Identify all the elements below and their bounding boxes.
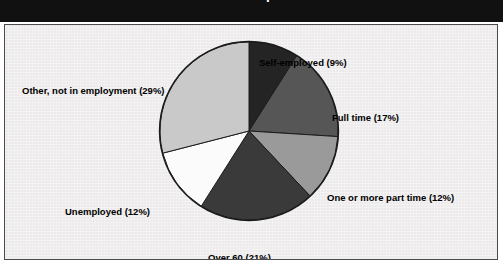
chart-panel: Self-employed (9%) Full time (17%) One o…	[4, 24, 498, 260]
pie-slice-group	[160, 42, 338, 220]
title-bar: the head of household has some form of p…	[0, 0, 503, 22]
slice-label-over-60: Over 60 (21%)	[208, 253, 271, 260]
slice-label-full-time: Full time (17%)	[332, 113, 399, 123]
page-title: the head of household has some form of p…	[6, 0, 328, 2]
slice-label-self-employed: Self-employed (9%)	[259, 58, 347, 68]
figure-root: the head of household has some form of p…	[0, 0, 503, 264]
slice-label-unemployed: Unemployed (12%)	[65, 207, 150, 217]
slice-label-other-not-in-employment: Other, not in employment (29%)	[22, 86, 165, 96]
slice-label-one-or-more-part-time: One or more part time (12%)	[327, 193, 454, 203]
